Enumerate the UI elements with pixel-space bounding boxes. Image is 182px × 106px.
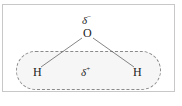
hydrogen-atom-left: H xyxy=(33,66,42,78)
hydrogen-atom-right: H xyxy=(133,66,142,78)
oxygen-partial-charge: δ− xyxy=(82,14,91,26)
bond-o-h-right xyxy=(93,38,134,67)
bond-o-h-left xyxy=(41,38,82,67)
hydrogen-partial-charge: δ+ xyxy=(81,66,90,78)
oxygen-atom: O xyxy=(83,27,92,39)
